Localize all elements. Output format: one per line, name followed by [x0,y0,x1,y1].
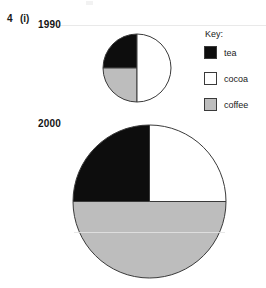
pie-1990-slice-tea [103,34,137,68]
chart-label-1990: 1990 [38,19,61,30]
key-title: Key: [205,29,264,39]
question-number: 4 [7,13,13,24]
key-label-coffee: coffee [224,100,248,110]
key-swatch-tea-icon [204,46,217,59]
chart-key: Key: tea cocoa coffee [204,29,264,123]
chart-label-2000: 2000 [38,118,61,129]
pie-1990-slice-coffee [103,68,137,102]
scan-streak [74,232,225,233]
pie-1990-svg [102,33,172,103]
pie-2000-svg [72,124,227,279]
scan-rule [54,25,266,26]
key-item-cocoa: cocoa [204,71,264,86]
key-label-tea: tea [224,48,237,58]
worksheet-page: 4 (i) 1990 2000 Key: tea cocoa [0,0,266,288]
pie-chart-1990 [102,33,172,103]
pie-2000-slice-tea [73,125,150,202]
question-part-label: (i) [20,13,29,24]
key-item-coffee: coffee [204,97,264,112]
pie-2000-slice-coffee [73,202,226,279]
pie-1990-slice-cocoa [137,34,171,102]
pie-chart-2000 [72,124,227,279]
key-swatch-cocoa-icon [204,72,217,85]
key-swatch-coffee-icon [204,98,217,111]
pie-2000-slice-cocoa [150,125,227,202]
scan-artifact [86,1,93,5]
key-label-cocoa: cocoa [224,74,248,84]
key-item-tea: tea [204,45,264,60]
